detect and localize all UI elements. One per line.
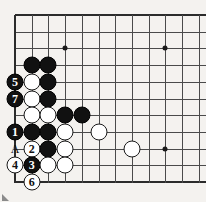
- stone-white: [40, 107, 57, 124]
- board-line-vertical: [149, 15, 150, 183]
- stone-black: [23, 57, 40, 74]
- board-line-vertical: [182, 15, 183, 183]
- star-point: [63, 46, 68, 51]
- board-line-vertical: [82, 15, 83, 183]
- stone-white: [23, 73, 40, 90]
- stone-move-number: 5: [12, 75, 18, 87]
- go-board: A5712436: [0, 0, 206, 202]
- stone-move-number: 4: [12, 159, 18, 171]
- go-diagram: A5712436: [0, 0, 206, 202]
- board-line-horizontal: [15, 32, 206, 33]
- star-point: [163, 46, 168, 51]
- stone-black: [73, 107, 90, 124]
- stone-white: [123, 140, 140, 157]
- point-label-a: A: [11, 143, 20, 155]
- stone-white: [90, 123, 107, 140]
- stone-black: [40, 90, 57, 107]
- board-line-vertical: [199, 15, 200, 183]
- board-line-vertical: [165, 15, 166, 183]
- stone-black: [23, 123, 40, 140]
- board-line-vertical: [115, 15, 116, 183]
- stone-black-move-1: 1: [7, 123, 24, 140]
- stone-white: [57, 140, 74, 157]
- stone-white-move-2: 2: [23, 140, 40, 157]
- stone-white: [23, 90, 40, 107]
- stone-black-move-3: 3: [23, 157, 40, 174]
- stone-white: [40, 157, 57, 174]
- stone-black: [57, 107, 74, 124]
- stone-black: [40, 73, 57, 90]
- stone-black-move-5: 5: [7, 73, 24, 90]
- board-line-horizontal: [15, 181, 206, 183]
- stone-black: [40, 140, 57, 157]
- stone-move-number: 1: [12, 125, 18, 137]
- board-line-horizontal: [15, 14, 206, 16]
- stone-black: [40, 57, 57, 74]
- board-line-vertical: [99, 15, 100, 183]
- star-point: [163, 146, 168, 151]
- stone-white-move-6: 6: [23, 174, 40, 191]
- stone-white: [57, 123, 74, 140]
- stone-black: [40, 123, 57, 140]
- stone-white: [57, 157, 74, 174]
- stone-move-number: 7: [12, 92, 18, 104]
- stone-white: [23, 107, 40, 124]
- board-line-vertical: [132, 15, 133, 183]
- stone-move-number: 2: [29, 142, 35, 154]
- page-corner-mark: [2, 194, 9, 201]
- stone-black-move-7: 7: [7, 90, 24, 107]
- stone-white-move-4: 4: [7, 157, 24, 174]
- board-line-horizontal: [15, 48, 206, 49]
- stone-move-number: 3: [29, 159, 35, 171]
- stone-move-number: 6: [29, 176, 35, 188]
